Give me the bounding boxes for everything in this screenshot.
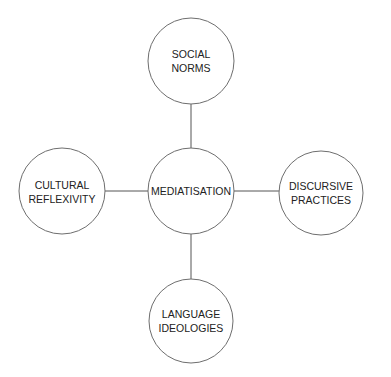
node-circle	[279, 151, 363, 235]
concept-diagram: SOCIAL NORMS MEDIATISATION CULTURAL REFL…	[0, 0, 391, 377]
node-circle	[148, 18, 234, 104]
node-social-norms: SOCIAL NORMS	[148, 18, 234, 104]
node-label-line-1: LANGUAGE	[162, 308, 220, 320]
node-mediatisation: MEDIATISATION	[148, 148, 234, 234]
node-label-line-2: PRACTICES	[291, 194, 351, 206]
node-circle	[149, 279, 233, 363]
node-label-line-1: DISCURSIVE	[289, 180, 353, 192]
node-label-line-1: SOCIAL	[172, 48, 211, 60]
node-discursive-practices: DISCURSIVE PRACTICES	[279, 151, 363, 235]
node-label-line-1: CULTURAL	[35, 179, 90, 191]
node-cultural-reflexivity: CULTURAL REFLEXIVITY	[19, 148, 105, 234]
node-circle	[19, 148, 105, 234]
node-label-line-2: REFLEXIVITY	[28, 193, 95, 205]
node-label-line-2: IDEOLOGIES	[159, 322, 224, 334]
node-label: MEDIATISATION	[151, 185, 231, 197]
node-label-line-2: NORMS	[171, 62, 210, 74]
node-language-ideologies: LANGUAGE IDEOLOGIES	[149, 279, 233, 363]
